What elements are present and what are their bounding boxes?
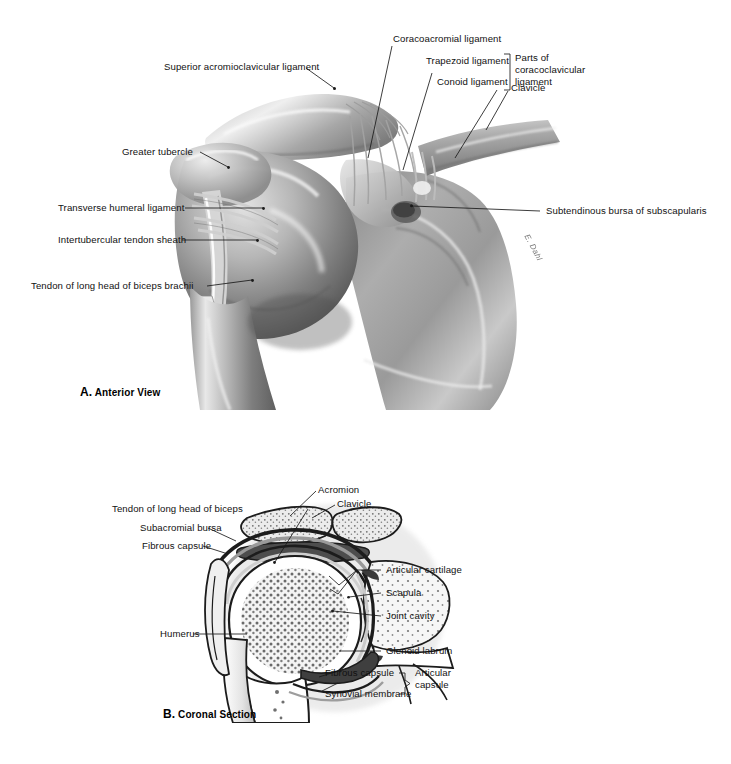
- label-scapula: Scapula: [386, 587, 421, 599]
- label-fibrous-capsule-upper: Fibrous capsule: [142, 540, 211, 552]
- label-acromion: Acromion: [318, 484, 359, 496]
- label-subtendinous-bursa-of-subscapularis: Subtendinous bursa of subscapularis: [546, 205, 707, 217]
- label-tendon-of-long-head-of-biceps-brachii: Tendon of long head of biceps brachii: [31, 280, 194, 292]
- label-superior-acromioclavicular-ligament: Superior acromioclavicular ligament: [164, 61, 319, 73]
- label-coracoacromial-ligament: Coracoacromial ligament: [393, 33, 501, 45]
- label-subacromial-bursa: Subacromial bursa: [140, 522, 222, 534]
- caption-letter-a: A.: [80, 385, 92, 399]
- label-clavicle-anterior: Clavicle: [511, 82, 545, 94]
- label-conoid-ligament: Conoid ligament: [437, 76, 508, 88]
- label-articular-capsule-group: Articular capsule: [415, 667, 475, 691]
- articular-capsule-line-2: capsule: [415, 679, 449, 690]
- label-greater-tubercle: Greater tubercle: [122, 146, 193, 158]
- caption-letter-b: B.: [163, 707, 175, 721]
- caption-panel-b: B. Coronal Section: [163, 707, 256, 721]
- bracket-line-2: coracoclavicular: [515, 64, 585, 75]
- bracket-line-1: Parts of: [515, 52, 549, 63]
- label-transverse-humeral-ligament: Transverse humeral ligament: [58, 202, 184, 214]
- anterior-view-illustration: [150, 60, 570, 410]
- label-joint-cavity: Joint cavity: [386, 610, 435, 622]
- caption-text-a: Anterior View: [95, 387, 161, 398]
- articular-capsule-line-1: Articular: [415, 667, 451, 678]
- label-synovial-membrane: Synovial membrane: [325, 688, 411, 700]
- label-tendon-of-long-head-of-biceps: Tendon of long head of biceps: [112, 503, 243, 515]
- label-fibrous-capsule-lower: Fibrous capsule: [325, 667, 394, 679]
- label-intertubercular-tendon-sheath: Intertubercular tendon sheath: [58, 234, 186, 246]
- label-clavicle-coronal: Clavicle: [337, 498, 371, 510]
- caption-text-b: Coronal Section: [178, 709, 256, 720]
- label-glenoid-labrum: Glenoid labrum: [386, 645, 452, 657]
- label-trapezoid-ligament: Trapezoid ligament: [426, 55, 509, 67]
- label-articular-cartilage: Articular cartilage: [386, 564, 462, 576]
- anatomy-plate: E. Dahl Superior acromioclavicular ligam…: [0, 0, 731, 764]
- label-humerus: Humerus: [160, 628, 200, 640]
- caption-panel-a: A. Anterior View: [80, 385, 160, 399]
